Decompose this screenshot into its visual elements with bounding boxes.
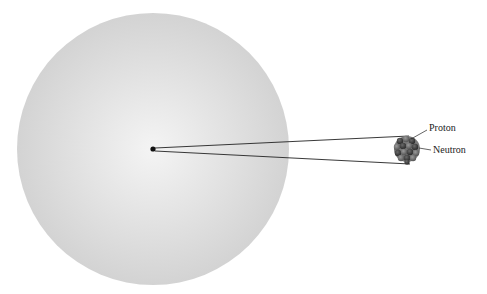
proton-leader-line <box>411 130 427 139</box>
nucleus-dot <box>150 146 155 151</box>
magnified-nucleus <box>394 136 420 165</box>
proton-label: Proton <box>429 122 456 133</box>
neutron-label: Neutron <box>433 144 466 155</box>
atom-diagram <box>0 0 487 294</box>
neutron-leader-line <box>419 148 431 150</box>
